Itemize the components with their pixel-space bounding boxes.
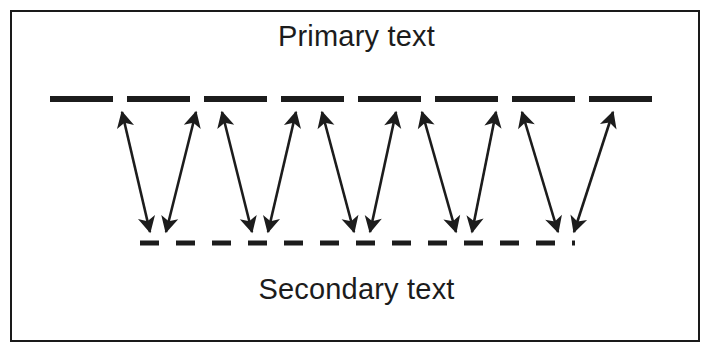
arrow-up-1 <box>166 112 196 232</box>
arrow-up-2 <box>268 112 296 232</box>
arrow-chain <box>122 112 613 232</box>
arrow-down-1 <box>122 112 150 232</box>
arrow-down-2 <box>222 112 252 232</box>
secondary-text-label: Secondary text <box>0 275 713 304</box>
arrow-up-4 <box>472 112 496 232</box>
arrow-up-5 <box>574 112 613 232</box>
arrow-up-3 <box>370 112 396 232</box>
arrow-down-4 <box>422 112 456 232</box>
primary-text-label: Primary text <box>0 22 713 51</box>
arrow-down-3 <box>322 112 354 232</box>
arrow-down-5 <box>522 112 558 232</box>
figure-canvas: Primary text Secondary text <box>0 0 713 356</box>
